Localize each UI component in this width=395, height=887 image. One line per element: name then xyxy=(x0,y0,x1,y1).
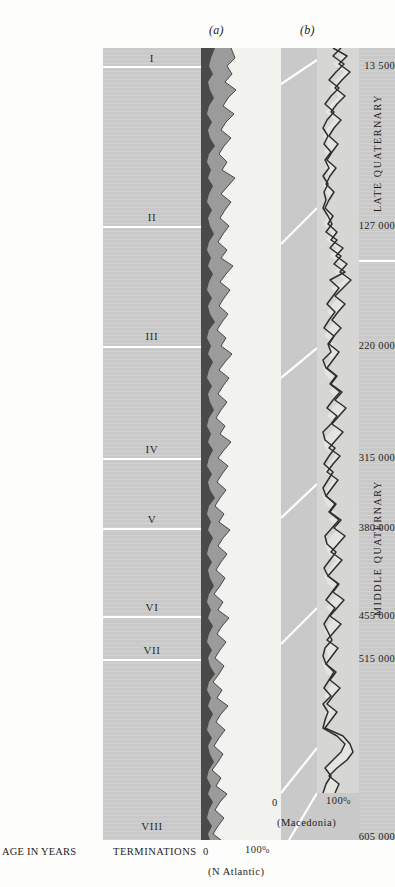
panel-b-percent-sub: 0 xyxy=(347,798,351,806)
age-label-455000: 455 000 xyxy=(299,610,395,621)
termination-rule-iii xyxy=(103,346,201,348)
termination-label-v: V xyxy=(103,513,201,525)
panel-a-header: (a) xyxy=(209,23,224,38)
termination-rule-iv xyxy=(103,458,201,460)
termination-label-i: I xyxy=(103,52,201,64)
age-label-515000: 515 000 xyxy=(299,653,395,664)
termination-label-iv: IV xyxy=(103,443,201,455)
leader-line-4 xyxy=(281,484,317,518)
plot-body: LATE QUATERNARY MIDDLE QUATERNARY I II I… xyxy=(103,48,395,840)
leader-line-3 xyxy=(281,348,317,378)
panel-b-source-caption: (Macedonia) xyxy=(277,817,336,828)
panel-b-background xyxy=(317,48,359,793)
panel-b-axis-max: 10000 xyxy=(326,795,350,806)
termination-rule-v xyxy=(103,528,201,530)
panel-b-header: (b) xyxy=(300,23,315,38)
panel-b-axis-max-value: 100 xyxy=(326,795,343,806)
panel-b-axis-min: 0 xyxy=(272,797,278,808)
chronostratigraphy-middle-quaternary: MIDDLE QUATERNARY xyxy=(372,480,383,616)
termination-label-viii: VIII xyxy=(103,820,201,832)
leader-lines-svg xyxy=(281,48,317,840)
age-label-315000: 315 000 xyxy=(299,452,395,463)
panel-a-axis-max-value: 100 xyxy=(245,844,262,855)
age-label-13500: 13 500 xyxy=(299,60,395,71)
terminations-axis-title: TERMINATIONS xyxy=(113,846,197,857)
termination-rule-ii xyxy=(103,226,201,228)
figure-root: (a) (b) xyxy=(0,0,395,887)
leader-line-6 xyxy=(281,748,317,793)
leader-line-column xyxy=(281,48,317,840)
age-label-380000: 380 000 xyxy=(299,522,395,533)
age-axis-title: AGE IN YEARS xyxy=(2,846,76,857)
panel-a-svg xyxy=(201,48,281,840)
age-label-127000: 127 000 xyxy=(299,220,395,231)
panel-a-source-caption: (N Atlantic) xyxy=(208,866,264,877)
termination-label-iii: III xyxy=(103,330,201,342)
chronostratigraphy-column: LATE QUATERNARY MIDDLE QUATERNARY xyxy=(359,48,395,840)
termination-rule-i xyxy=(103,66,201,68)
panel-b-plot xyxy=(317,48,359,793)
panel-b-svg xyxy=(317,48,359,793)
termination-rule-vii xyxy=(103,659,201,661)
panel-a-percent-sub: 0 xyxy=(266,847,270,855)
termination-label-vii: VII xyxy=(103,644,201,656)
panel-a-axis-min: 0 xyxy=(203,846,209,857)
panel-a-plot xyxy=(201,48,281,840)
age-label-605000: 605 000 xyxy=(299,831,395,842)
termination-rule-vi xyxy=(103,616,201,618)
panel-a-axis-max: 10000 xyxy=(245,844,269,855)
termination-label-vi: VI xyxy=(103,601,201,613)
chronostratigraphy-divider xyxy=(359,260,395,262)
age-label-220000: 220 000 xyxy=(299,340,395,351)
chronostratigraphy-late-quaternary: LATE QUATERNARY xyxy=(372,94,383,212)
termination-label-ii: II xyxy=(103,211,201,223)
